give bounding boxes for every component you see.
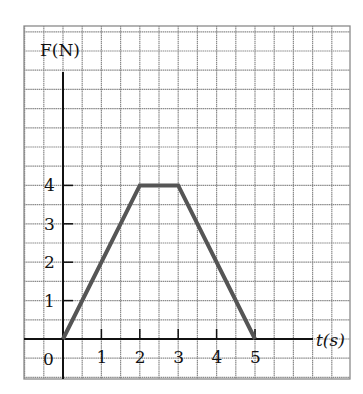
x-tick-label: 4 (212, 347, 223, 367)
origin-label: 0 (43, 349, 54, 369)
force-time-chart: 123451234 F(N) t(s) 0 (0, 0, 363, 394)
x-tick-label: 1 (96, 347, 107, 367)
y-tick-label: 3 (44, 214, 55, 234)
x-tick-label: 5 (250, 347, 261, 367)
y-tick-label: 1 (44, 291, 55, 311)
x-axis-label: t(s) (316, 330, 345, 350)
y-tick-label: 2 (44, 252, 55, 272)
x-tick-label: 2 (135, 347, 146, 367)
y-tick-label: 4 (44, 175, 55, 195)
y-axis-label: F(N) (40, 40, 80, 60)
x-tick-label: 3 (173, 347, 184, 367)
